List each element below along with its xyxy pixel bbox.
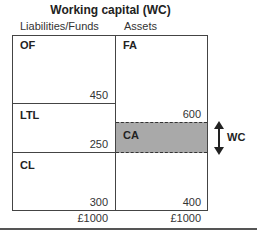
double-arrow-icon — [213, 121, 225, 155]
right-total: £1000 — [150, 212, 201, 224]
ltl-value: 250 — [60, 138, 108, 150]
wc-label: WC — [227, 131, 245, 143]
of-value: 450 — [60, 89, 108, 101]
assets-header: Assets — [124, 20, 157, 32]
cl-value: 300 — [60, 196, 108, 208]
diagram-title: Working capital (WC) — [0, 3, 239, 17]
ltl-label: LTL — [20, 109, 39, 121]
ca-value: 400 — [150, 196, 201, 208]
fa-label: FA — [123, 39, 137, 51]
ca-label: CA — [123, 129, 139, 141]
cl-label: CL — [20, 159, 35, 171]
left-total: £1000 — [60, 212, 108, 224]
of-label: OF — [20, 39, 35, 51]
bottom-rule — [0, 228, 257, 230]
liabilities-header: Liabilities/Funds — [20, 20, 99, 32]
fa-value: 600 — [150, 108, 201, 120]
